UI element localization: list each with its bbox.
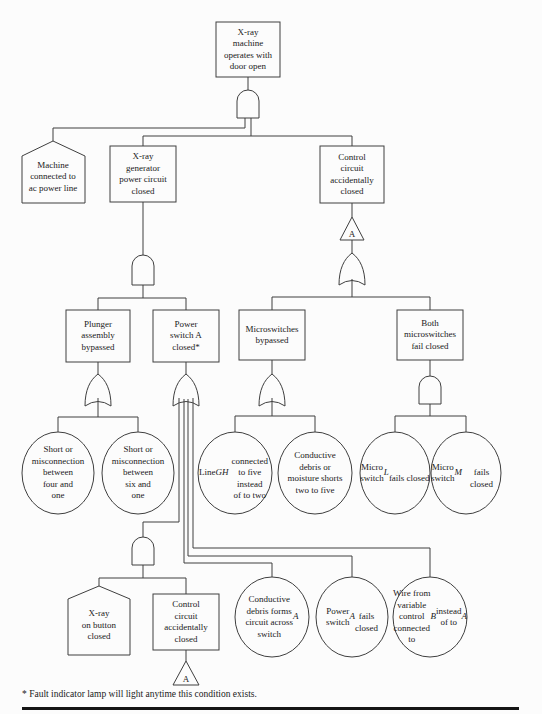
and-gate-bottom [132,537,154,565]
or-gate-power-switch [173,374,199,406]
label-top-event: X-ray machine operates with door open [217,23,279,76]
wire-rail-house1 [53,128,245,141]
label-xray-on-button: X-ray on button closed [69,599,129,652]
label-plunger-assembly: Plunger assembly bypassed [67,311,129,361]
and-gate-generator [132,255,154,285]
label-short-six-one: Short or misconnection between six and o… [102,432,174,514]
label-machine-connected: Machine connected to ac power line [23,153,83,201]
label-xray-generator: X-ray generator power circuit closed [111,147,175,201]
label-wire-variable: Wire from variable control connected to … [393,577,467,657]
or-gate-plunger [85,374,111,406]
wire-rail-or1-children [272,297,430,310]
wire-rail-level2 [143,136,352,146]
wire-rail-and2-children [98,298,186,310]
label-micro-switch-l: Micro switch L fails closed [360,432,430,514]
label-line-gh: Line GH connected to five instead of to … [199,432,271,514]
label-control-circuit-2: Control circuit accidentally closed [154,595,218,649]
label-conductive-moisture: Conductive debris or moisture shorts two… [279,432,351,514]
label-microswitches-bypassed: Microswitches bypassed [240,311,304,359]
or-gate-microswitches [259,374,285,406]
label-control-circuit: Control circuit accidentally closed [321,147,383,202]
label-both-microswitches: Both microswitches fail closed [398,311,462,359]
and-gate-top [237,90,259,118]
wire-rail-and3-children [395,416,466,432]
label-short-four-one: Short or misconnection between four and … [22,432,94,514]
label-power-switch-fails: Power switch A fails closed [317,577,387,657]
label-conductive-forms: Conductive debris forms circuit across s… [235,577,309,657]
label-power-switch-a: Power switch A closed* [154,311,218,361]
fault-tree-diagram: A A X-ray machine operates with door ope… [0,0,542,714]
and-gate-both-microswitches [419,376,441,404]
label-micro-switch-m: Micro switch M fails closed [431,432,501,514]
footnote-text: * Fault indicator lamp will light anytim… [22,687,382,701]
wire-rail-or2-children [58,417,138,432]
transfer-label-source: A [349,229,356,239]
or-gate-control [339,253,365,285]
bottom-rule [22,707,519,710]
transfer-label-destination: A [183,674,190,684]
wire-rail-or4-children [235,416,315,432]
